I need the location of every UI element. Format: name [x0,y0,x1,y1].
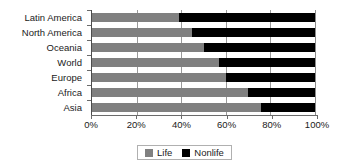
x-tick-label: 100% [305,120,329,130]
stacked-bar [92,88,315,97]
stacked-bar [92,103,315,112]
x-axis-tick-marks [91,115,317,119]
y-axis-label: North America [0,25,86,40]
bar-segment-life [92,58,219,67]
bar-segment-life [92,13,179,22]
bar-row [92,55,315,70]
bar-segment-life [92,43,204,52]
y-axis-label: Europe [0,70,86,85]
bar-segment-nonlife [179,13,315,22]
stacked-bar [92,43,315,52]
bar-segment-life [92,28,192,37]
legend-swatch-icon [145,149,153,157]
x-axis-tick-labels: 0%20%40%60%80%100% [91,120,317,134]
bar-segment-nonlife [219,58,315,67]
legend-swatch-icon [182,149,190,157]
bar-row [92,70,315,85]
bar-row [92,10,315,25]
x-tick-label: 80% [262,120,281,130]
x-tick-label: 0% [84,120,98,130]
stacked-bar [92,73,315,82]
y-axis-label: Africa [0,85,86,100]
stacked-bar [92,13,315,22]
y-axis-label: Asia [0,100,86,115]
bar-segment-life [92,103,261,112]
y-axis-label: Latin America [0,10,86,25]
legend-entry: Life [145,148,172,158]
bar-series-group [92,10,315,115]
stacked-bar [92,28,315,37]
bar-segment-life [92,88,248,97]
bar-segment-nonlife [226,73,315,82]
y-axis-label: World [0,55,86,70]
bar-segment-nonlife [192,28,315,37]
legend-label: Life [157,148,172,158]
chart-legend: LifeNonlife [137,145,232,160]
bar-segment-nonlife [248,88,315,97]
stacked-bar [92,58,315,67]
bar-row [92,25,315,40]
bar-segment-life [92,73,226,82]
bar-row [92,100,315,115]
y-axis-label: Oceania [0,40,86,55]
legend-entry: Nonlife [182,148,224,158]
x-tick-label: 40% [172,120,191,130]
stacked-bar-chart: Latin AmericaNorth AmericaOceaniaWorldEu… [0,0,347,165]
x-tick-label: 20% [127,120,146,130]
y-axis-category-labels: Latin AmericaNorth AmericaOceaniaWorldEu… [0,10,86,115]
x-tick-label: 60% [217,120,236,130]
bar-segment-nonlife [204,43,316,52]
legend-label: Nonlife [194,148,224,158]
bar-segment-nonlife [261,103,315,112]
bar-row [92,85,315,100]
bar-row [92,40,315,55]
plot-area [91,10,316,115]
